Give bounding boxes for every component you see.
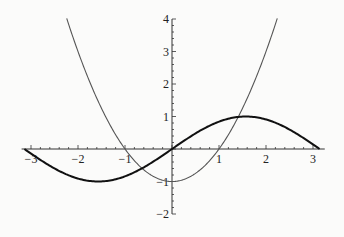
x-tick-label: 1 [216,152,222,166]
y-tick-label: 3 [163,45,169,59]
y-tick-label: 4 [163,12,169,26]
tick-labels: −3−2−1123−2−11234 [25,12,316,221]
x-tick-label: 3 [310,152,316,166]
x-tick-label: −2 [72,152,85,166]
y-tick-label: 2 [163,77,169,91]
x-tick-label: 2 [263,152,269,166]
function-plot: −3−2−1123−2−11234 [0,0,344,237]
axes [22,19,325,214]
y-tick-label: −2 [156,207,169,221]
y-tick-label: 1 [163,110,169,124]
